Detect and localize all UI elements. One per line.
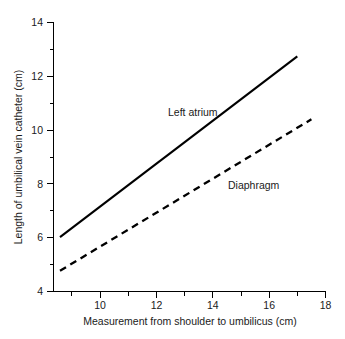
y-axis-title: Length of umbilical vein catheter (cm) — [12, 70, 24, 245]
x-tick-label-18: 18 — [320, 299, 332, 311]
series-label-diaphragm: Diaphragm — [228, 179, 280, 191]
x-tick-label-16: 16 — [263, 299, 275, 311]
y-tick-label-14: 14 — [31, 16, 43, 28]
x-tick-label-10: 10 — [94, 299, 106, 311]
y-tick-label-12: 12 — [31, 70, 43, 82]
y-tick-label-4: 4 — [37, 285, 43, 297]
chart-figure: 4 6 8 10 12 14 10 12 14 16 18 — [0, 0, 345, 339]
y-tick-label-6: 6 — [37, 231, 43, 243]
y-tick-label-10: 10 — [31, 124, 43, 136]
line-chart: 4 6 8 10 12 14 10 12 14 16 18 — [0, 0, 345, 339]
x-tick-label-12: 12 — [151, 299, 163, 311]
x-axis-title: Measurement from shoulder to umbilicus (… — [83, 315, 297, 327]
chart-background — [0, 0, 345, 339]
y-tick-label-8: 8 — [37, 178, 43, 190]
x-tick-label-14: 14 — [207, 299, 219, 311]
series-label-left-atrium: Left atrium — [168, 106, 218, 118]
